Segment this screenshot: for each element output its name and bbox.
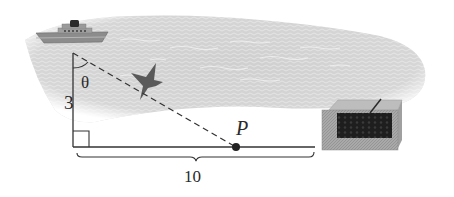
length-brace xyxy=(77,152,314,161)
vertical-length-label: 3 xyxy=(64,93,74,112)
crate-icon xyxy=(322,99,402,150)
point-label: P xyxy=(236,118,248,138)
angle-label: θ xyxy=(81,74,89,91)
right-angle-marker xyxy=(73,131,89,147)
point-p-marker xyxy=(232,143,240,151)
diagram-figure: θ 3 P 10 xyxy=(0,0,454,197)
horizontal-length-label: 10 xyxy=(184,168,201,185)
